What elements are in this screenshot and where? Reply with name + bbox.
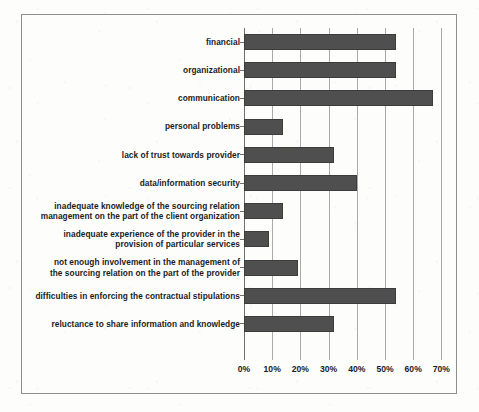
category-label-line: organizational: [183, 65, 240, 76]
category-label-line: inadequate knowledge of the sourcing rel…: [54, 201, 240, 212]
bar: [244, 147, 334, 163]
plot-area: [244, 28, 441, 360]
bar: [244, 34, 396, 50]
x-tick-label: 0%: [238, 364, 250, 374]
bar-row: [244, 254, 441, 282]
category-label: inadequate knowledge of the sourcing rel…: [28, 197, 240, 225]
bar: [244, 62, 396, 78]
category-axis-labels: financialorganizationalcommunicationpers…: [28, 28, 240, 338]
bar-row: [244, 197, 441, 225]
category-label: organizational: [28, 56, 240, 84]
bar: [244, 119, 283, 135]
chart-page: financialorganizationalcommunicationpers…: [0, 0, 479, 412]
category-tick: [240, 183, 244, 184]
category-label-line: management on the part of the client org…: [41, 211, 240, 222]
x-tick-label: 10%: [264, 364, 281, 374]
category-label-line: data/information security: [140, 178, 240, 189]
category-label: difficulties in enforcing the contractua…: [28, 282, 240, 310]
category-tick: [240, 70, 244, 71]
bar: [244, 260, 298, 276]
x-axis-tick-labels: 0%10%20%30%40%50%60%70%: [244, 364, 441, 380]
x-tick-label: 60%: [405, 364, 422, 374]
bar-row: [244, 310, 441, 338]
category-label-line: communication: [178, 93, 240, 104]
category-tick: [240, 211, 244, 212]
category-tick: [240, 98, 244, 99]
category-label-line: the sourcing relation on the part of the…: [50, 268, 240, 279]
category-tick: [240, 154, 244, 155]
bar: [244, 90, 433, 106]
category-tick: [240, 42, 244, 43]
bar-row: [244, 84, 441, 112]
bar-row: [244, 169, 441, 197]
category-label: financial: [28, 28, 240, 56]
category-tick: [240, 295, 244, 296]
category-label-line: not enough involvement in the management…: [54, 257, 240, 268]
category-label-line: reluctance to share information and know…: [51, 319, 240, 330]
bar: [244, 203, 283, 219]
category-label: inadequate experience of the provider in…: [28, 225, 240, 253]
category-label: not enough involvement in the management…: [28, 254, 240, 282]
category-label-line: lack of trust towards provider: [122, 150, 240, 161]
bar-row: [244, 113, 441, 141]
bar-row: [244, 282, 441, 310]
category-tick: [240, 239, 244, 240]
category-tick: [240, 126, 244, 127]
category-label-line: provision of particular services: [115, 239, 240, 250]
category-label: communication: [28, 84, 240, 112]
bar-row: [244, 225, 441, 253]
category-tick: [240, 267, 244, 268]
category-tick: [240, 323, 244, 324]
category-label: personal problems: [28, 113, 240, 141]
x-tick-label: 30%: [320, 364, 337, 374]
bar: [244, 288, 396, 304]
bar-series: [244, 28, 441, 338]
bar-row: [244, 56, 441, 84]
category-label-line: inadequate experience of the provider in…: [64, 229, 240, 240]
gridline: [441, 28, 442, 360]
x-tick-label: 50%: [376, 364, 393, 374]
x-tick-label: 20%: [292, 364, 309, 374]
bar: [244, 175, 357, 191]
category-label: lack of trust towards provider: [28, 141, 240, 169]
bar: [244, 316, 334, 332]
category-label: data/information security: [28, 169, 240, 197]
category-label-line: personal problems: [165, 121, 240, 132]
bar: [244, 231, 269, 247]
category-label-line: financial: [206, 37, 240, 48]
bar-row: [244, 28, 441, 56]
category-label: reluctance to share information and know…: [28, 310, 240, 338]
x-tick-label: 40%: [348, 364, 365, 374]
bar-row: [244, 141, 441, 169]
category-label-line: difficulties in enforcing the contractua…: [35, 291, 240, 302]
x-tick-label: 70%: [433, 364, 450, 374]
